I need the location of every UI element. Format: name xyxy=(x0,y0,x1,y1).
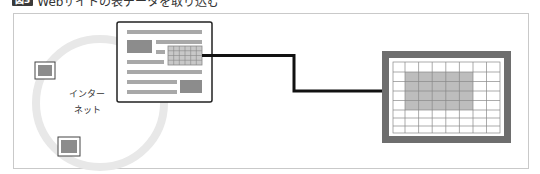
internet-label-line2: ネット xyxy=(62,102,112,118)
spreadsheet-icon xyxy=(382,51,511,143)
internet-label: インター ネット xyxy=(62,86,112,118)
webpage-table-icon xyxy=(168,46,202,65)
remote-computer-2-icon xyxy=(58,137,80,156)
import-arrow-icon xyxy=(202,56,410,98)
remote-computer-1-icon xyxy=(35,62,55,79)
internet-label-line1: インター xyxy=(62,86,112,102)
webpage-document-icon xyxy=(117,22,212,102)
